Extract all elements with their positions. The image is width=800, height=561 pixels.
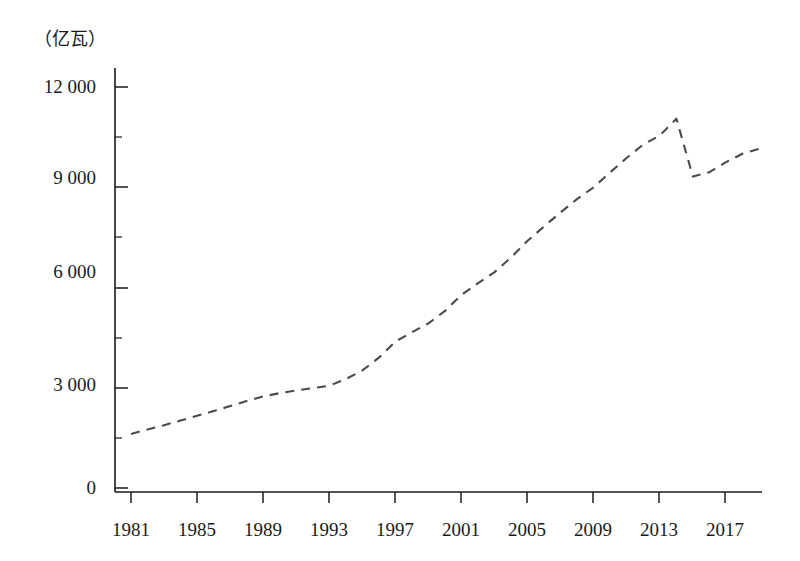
plot-canvas: [0, 0, 800, 561]
y-axis-major-ticks: [115, 87, 128, 488]
data-series-line: [131, 119, 759, 434]
line-chart-figure: （亿瓦） 12 000 9 000 6 000 3 000 0 1981 198…: [0, 0, 800, 561]
x-axis-ticks: [131, 492, 725, 503]
